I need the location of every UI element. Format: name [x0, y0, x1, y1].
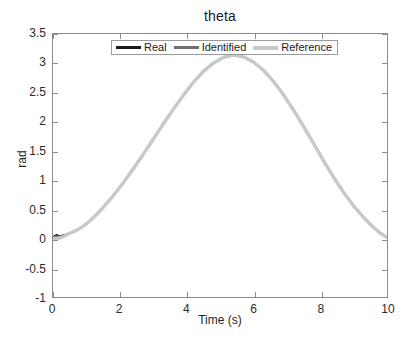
x-tick-label: 6 — [234, 303, 274, 315]
chart-figure: theta rad Time (s) RealIdentifiedReferen… — [0, 0, 413, 345]
legend-label: Identified — [202, 42, 247, 53]
y-tick-label: 3 — [0, 56, 46, 68]
y-tick-mark — [53, 181, 58, 182]
y-tick-label: 3.5 — [0, 27, 46, 39]
y-tick-label: 1 — [0, 174, 46, 186]
y-tick-mark — [382, 270, 387, 271]
x-tick-mark — [120, 34, 121, 39]
x-tick-mark — [322, 34, 323, 39]
y-tick-mark — [382, 63, 387, 64]
chart-title: theta — [52, 8, 388, 24]
y-tick-mark — [53, 270, 58, 271]
y-tick-mark — [53, 211, 58, 212]
legend-entry[interactable]: Real — [116, 42, 167, 53]
y-tick-label: 0.5 — [0, 204, 46, 216]
legend-entry[interactable]: Identified — [174, 42, 247, 53]
legend-swatch-reference — [253, 46, 278, 50]
legend-swatch-real — [116, 46, 141, 49]
y-tick-label: 2 — [0, 115, 46, 127]
x-tick-mark — [53, 34, 54, 39]
x-tick-label: 4 — [166, 303, 206, 315]
y-tick-mark — [382, 181, 387, 182]
x-tick-mark — [53, 292, 54, 297]
y-tick-mark — [382, 122, 387, 123]
y-tick-mark — [382, 34, 387, 35]
plot-area: RealIdentifiedReference — [52, 33, 388, 298]
x-tick-mark — [255, 34, 256, 39]
y-tick-mark — [53, 122, 58, 123]
y-tick-mark — [53, 93, 58, 94]
x-tick-mark — [120, 292, 121, 297]
series-line — [53, 55, 387, 237]
x-tick-mark — [187, 292, 188, 297]
x-tick-mark — [322, 292, 323, 297]
x-tick-mark — [187, 34, 188, 39]
x-tick-mark — [255, 292, 256, 297]
series-line — [53, 55, 387, 239]
x-tick-label: 2 — [99, 303, 139, 315]
x-axis-label: Time (s) — [52, 313, 388, 327]
y-tick-mark — [382, 152, 387, 153]
x-tick-label: 0 — [32, 303, 72, 315]
x-tick-label: 10 — [368, 303, 408, 315]
legend-label: Reference — [281, 42, 332, 53]
y-tick-mark — [382, 211, 387, 212]
y-tick-label: 2.5 — [0, 86, 46, 98]
series-line — [53, 55, 387, 238]
y-tick-label: 0 — [0, 233, 46, 245]
x-tick-label: 8 — [301, 303, 341, 315]
series-lines — [53, 34, 387, 297]
y-tick-mark — [53, 152, 58, 153]
y-tick-mark — [53, 240, 58, 241]
legend-entry[interactable]: Reference — [253, 42, 332, 53]
y-tick-mark — [53, 63, 58, 64]
y-tick-label: 1.5 — [0, 145, 46, 157]
legend-label: Real — [144, 42, 167, 53]
legend-swatch-identified — [174, 46, 199, 49]
y-tick-mark — [382, 93, 387, 94]
legend: RealIdentifiedReference — [111, 40, 338, 55]
y-tick-mark — [382, 240, 387, 241]
y-tick-label: -0.5 — [0, 263, 46, 275]
